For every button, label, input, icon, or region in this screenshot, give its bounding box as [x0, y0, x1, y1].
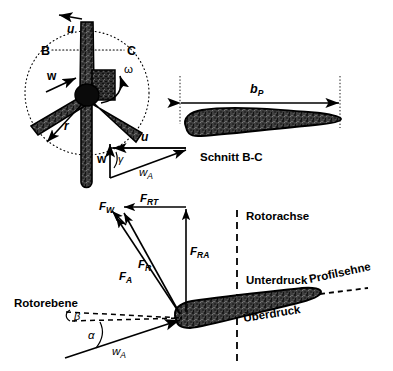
gamma-label: γ: [118, 153, 124, 165]
rotor-axis-label: Rotorachse: [246, 210, 309, 222]
suction-side-label: Unterdruck: [246, 274, 308, 286]
velocity-u-label: u: [141, 130, 149, 144]
velocity-w-label: w: [96, 152, 107, 166]
rotor-plane-label: Rotorebene: [14, 297, 78, 309]
velocity-w-label-top: w: [46, 69, 57, 83]
alpha-label: α: [88, 329, 95, 341]
omega-label: ω: [124, 63, 133, 75]
beta-label: β: [73, 310, 81, 322]
section-marker-b: B: [41, 44, 50, 58]
wind-turbine-blade-diagram: B C u w ω r bP Schnitt B-C u: [0, 0, 393, 371]
tower-mast: [81, 96, 92, 188]
rotor-hub: [75, 84, 99, 106]
section-caption: Schnitt B-C: [200, 151, 263, 163]
section-marker-c: C: [127, 44, 136, 58]
velocity-u-label-top: u: [67, 22, 75, 36]
